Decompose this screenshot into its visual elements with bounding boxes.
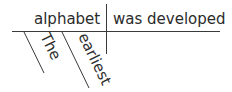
modifier-word-the: The <box>36 29 65 63</box>
predicate-word: was developed <box>113 10 226 28</box>
sentence-diagram: alphabet was developed The earliest <box>0 0 232 92</box>
modifier-word-earliest: earliest <box>74 30 115 88</box>
subject-word: alphabet <box>34 10 100 28</box>
diagram-lines: alphabet was developed The earliest <box>0 0 232 92</box>
